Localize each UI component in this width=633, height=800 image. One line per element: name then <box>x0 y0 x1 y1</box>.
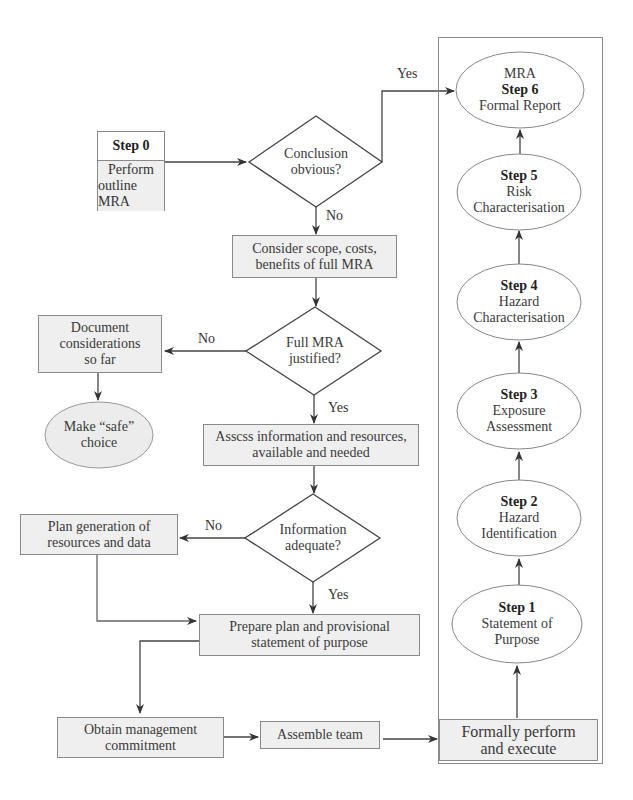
step0-line2: outline MRA <box>98 178 164 210</box>
safe-line1: Make “safe” <box>64 419 134 435</box>
step6-ellipse: MRA Step 6 Formal Report <box>456 52 584 128</box>
step5-line2: Characterisation <box>473 200 565 216</box>
step2-ellipse: Step 2 Hazard Identification <box>457 480 581 556</box>
document-line2: considerations <box>60 336 141 352</box>
obtain-box: Obtain management commitment <box>57 717 224 758</box>
label-yes-conclusion: Yes <box>397 66 417 82</box>
step0-box: Step 0 Perform outline MRA <box>97 131 165 211</box>
safe-line2: choice <box>81 435 118 451</box>
prepare-line1: Prepare plan and provisional <box>229 619 390 635</box>
step4-ellipse: Step 4 Hazard Characterisation <box>457 264 581 340</box>
assemble-box: Assemble team <box>260 721 380 749</box>
step4-line1: Hazard <box>499 294 539 310</box>
step5-ellipse: Step 5 Risk Characterisation <box>457 154 581 230</box>
consider-line2: benefits of full MRA <box>256 257 374 273</box>
information-diamond: Information adequate? <box>256 516 370 560</box>
conclusion-diamond: Conclusion obvious? <box>259 140 373 184</box>
plangen-line2: resources and data <box>47 535 150 551</box>
step6-pre: MRA <box>504 66 536 82</box>
document-line3: so far <box>84 352 116 368</box>
formally-line2: and execute <box>481 740 557 757</box>
justified-line2: justified? <box>289 351 341 367</box>
step2-line2: Identification <box>481 526 556 542</box>
step2-title: Step 2 <box>501 494 538 510</box>
assemble-line1: Assemble team <box>277 727 363 743</box>
assess-line1: Asscss information and resources, <box>215 429 406 445</box>
label-no-justified: No <box>198 331 215 347</box>
step2-line1: Hazard <box>499 510 539 526</box>
label-yes-information: Yes <box>328 587 348 603</box>
information-line2: adequate? <box>285 538 341 554</box>
step1-line2: Purpose <box>494 632 539 648</box>
conclusion-line1: Conclusion <box>284 146 348 162</box>
step6-line1: Formal Report <box>479 98 561 114</box>
formally-box: Formally perform and execute <box>439 719 598 761</box>
plangen-line1: Plan generation of <box>48 519 151 535</box>
document-box: Document considerations so far <box>38 315 162 373</box>
label-no-conclusion: No <box>326 208 343 224</box>
step4-line2: Characterisation <box>473 310 565 326</box>
step1-line1: Statement of <box>481 616 552 632</box>
plan-generation-box: Plan generation of resources and data <box>20 514 178 555</box>
step1-ellipse: Step 1 Statement of Purpose <box>452 585 582 663</box>
step5-title: Step 5 <box>501 168 538 184</box>
consider-box: Consider scope, costs, benefits of full … <box>232 235 397 278</box>
information-line1: Information <box>280 522 347 538</box>
formally-line1: Formally perform <box>461 723 575 740</box>
justified-line1: Full MRA <box>286 335 344 351</box>
label-yes-justified: Yes <box>328 400 348 416</box>
assess-line2: available and needed <box>252 445 369 461</box>
conclusion-line2: obvious? <box>291 162 342 178</box>
justified-diamond: Full MRA justified? <box>258 329 372 373</box>
step0-title: Step 0 <box>98 132 164 161</box>
step5-line1: Risk <box>506 184 532 200</box>
assess-box: Asscss information and resources, availa… <box>203 424 419 466</box>
prepare-line2: statement of purpose <box>251 635 368 651</box>
step6-title: Step 6 <box>502 82 539 98</box>
prepare-box: Prepare plan and provisional statement o… <box>199 614 420 656</box>
label-no-information: No <box>205 518 222 534</box>
step0-line1: Perform <box>108 162 154 178</box>
consider-line1: Consider scope, costs, <box>252 241 376 257</box>
obtain-line2: commitment <box>105 738 176 754</box>
safe-choice-ellipse: Make “safe” choice <box>45 402 153 468</box>
step3-line1: Exposure <box>493 403 546 419</box>
step3-line2: Assessment <box>486 419 552 435</box>
obtain-line1: Obtain management <box>84 722 197 738</box>
step3-title: Step 3 <box>501 387 538 403</box>
step1-title: Step 1 <box>499 600 536 616</box>
step3-ellipse: Step 3 Exposure Assessment <box>457 373 581 449</box>
step4-title: Step 4 <box>501 278 538 294</box>
document-line1: Document <box>71 320 129 336</box>
